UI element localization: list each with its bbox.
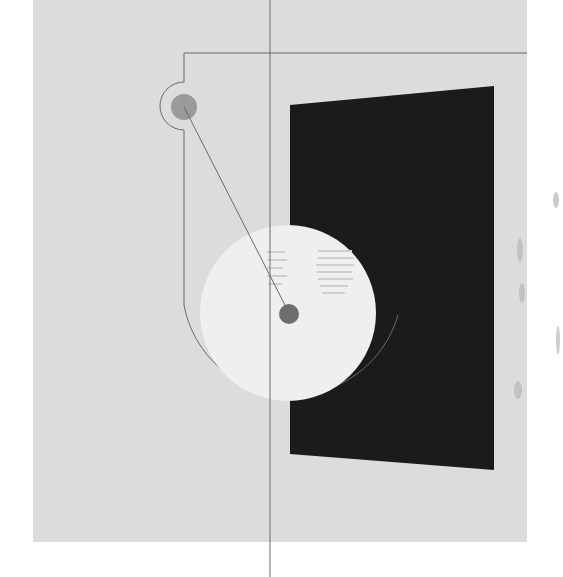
center-dot	[279, 304, 299, 324]
abstract-composition	[0, 0, 563, 577]
edge-smudges	[514, 192, 560, 399]
